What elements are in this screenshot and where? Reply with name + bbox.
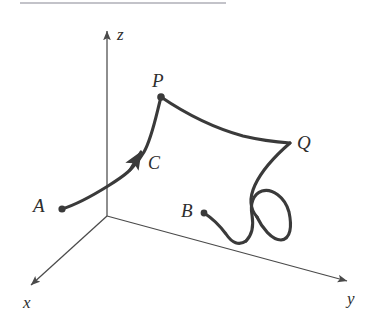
curve-segment-q-to-loop [251,143,290,217]
curve-label-c: C [148,154,160,172]
point-label-p: P [152,71,164,90]
x-axis-line [31,216,107,285]
axis-label-y: y [347,290,355,307]
curve-segment-p-to-q [161,97,290,143]
point-dot-p [157,93,165,101]
point-label-q: Q [297,133,311,152]
point-label-a: A [33,196,45,215]
y-axis-line [107,216,347,281]
point-label-b: B [181,201,193,220]
axis-label-x: x [23,294,31,311]
curve-segment-a-to-p [62,97,161,209]
figure-canvas [0,0,374,331]
space-curve-figure: z x y A P Q B C [0,0,374,331]
curve-loop [246,190,290,241]
curve-segment-loop-to-b [204,213,246,243]
axis-label-z: z [117,26,124,43]
point-dot-a [58,205,65,212]
point-dot-b [201,210,208,217]
